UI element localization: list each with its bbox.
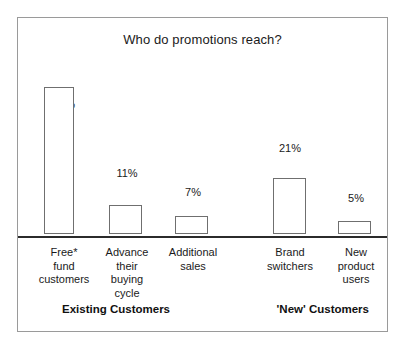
category-label-line: Additional	[156, 246, 230, 260]
bar-rect	[109, 205, 142, 234]
plot-area: 56% 11% 7% 21% 5% Free* fund customer	[18, 18, 387, 331]
category-label-line: switchers	[252, 260, 328, 274]
bar-rect	[44, 87, 74, 234]
bar-value-label: 5%	[326, 192, 386, 204]
group-label-new-customers: 'New' Customers	[277, 303, 369, 315]
category-label-line: cycle	[96, 287, 158, 301]
category-label-line: their	[96, 260, 158, 274]
bar-rect	[338, 221, 371, 234]
category-label-advance-buying-cycle: Advance their buying cycle	[96, 246, 158, 300]
bar-value-label: 21%	[256, 142, 324, 154]
bar-value-label: 7%	[160, 186, 226, 198]
group-label-existing-customers: Existing Customers	[62, 303, 170, 315]
category-label-line: users	[326, 273, 386, 287]
category-label-line: fund	[28, 260, 100, 274]
bar-value-label: 11%	[96, 167, 158, 179]
bar-group-additional-sales: 7%	[160, 18, 226, 331]
category-label-line: New	[326, 246, 386, 260]
category-label-line: Brand	[252, 246, 328, 260]
category-label-line: Free*	[28, 246, 100, 260]
category-label-line: sales	[156, 260, 230, 274]
category-label-free-fund-customers: Free* fund customers	[28, 246, 100, 287]
category-label-brand-switchers: Brand switchers	[252, 246, 328, 273]
category-label-new-product-users: New product users	[326, 246, 386, 287]
bar-rect	[175, 216, 208, 234]
bar-group-brand-switchers: 21%	[256, 18, 324, 331]
category-label-line: product	[326, 260, 386, 274]
chart-figure: Who do promotions reach? 56% 11% 7% 21% …	[17, 17, 388, 332]
category-label-additional-sales: Additional sales	[156, 246, 230, 273]
category-label-line: buying	[96, 273, 158, 287]
axis-baseline	[18, 236, 387, 238]
bar-rect	[273, 178, 306, 234]
category-label-line: customers	[28, 273, 100, 287]
category-label-line: Advance	[96, 246, 158, 260]
